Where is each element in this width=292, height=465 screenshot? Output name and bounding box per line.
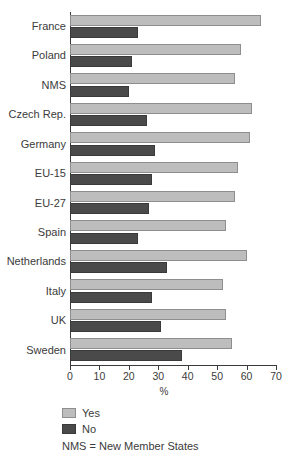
bar-group-row (70, 306, 276, 335)
bar-group-row (70, 159, 276, 188)
bar-yes-uk (70, 309, 226, 320)
x-axis-tick-label-70: 70 (270, 370, 282, 382)
bar-group-row (70, 277, 276, 306)
y-axis-label-germany: Germany (21, 130, 66, 159)
x-axis-tick-label-20: 20 (123, 370, 135, 382)
bar-no-germany (70, 145, 155, 156)
bar-no-czech-rep (70, 115, 147, 126)
y-axis-label-sweden: Sweden (26, 336, 66, 365)
y-axis-label-netherlands: Netherlands (7, 247, 66, 276)
x-axis-tick-label-40: 40 (182, 370, 194, 382)
bar-yes-poland (70, 44, 241, 55)
x-axis-tick-label-50: 50 (211, 370, 223, 382)
bar-yes-spain (70, 220, 226, 231)
bar-rows-container (70, 12, 276, 365)
bar-group-row (70, 100, 276, 129)
bar-group-row (70, 130, 276, 159)
bar-yes-eu-15 (70, 162, 238, 173)
bar-no-sweden (70, 350, 182, 361)
bar-yes-sweden (70, 338, 232, 349)
y-axis-label-nms: NMS (42, 71, 66, 100)
x-axis-title: % (0, 386, 292, 397)
y-axis-label-spain: Spain (38, 218, 66, 247)
bar-yes-france (70, 15, 261, 26)
bar-group-row (70, 218, 276, 247)
bar-no-uk (70, 321, 161, 332)
bar-yes-nms (70, 73, 235, 84)
bar-no-spain (70, 233, 138, 244)
bar-no-france (70, 27, 138, 38)
bar-no-eu-27 (70, 203, 149, 214)
bar-no-netherlands (70, 262, 167, 273)
chart-title-strip: EU towards other countries? (0, 0, 292, 9)
bar-yes-eu-27 (70, 191, 235, 202)
bar-yes-czech-rep (70, 103, 252, 114)
y-axis-category-labels: FrancePolandNMSCzech Rep.GermanyEU-15EU-… (0, 12, 66, 365)
chart-legend: Yes No NMS = New Member States (62, 406, 199, 452)
bar-group-row (70, 41, 276, 70)
x-axis-tick-label-30: 30 (152, 370, 164, 382)
legend-item-no: No (62, 422, 199, 436)
x-axis-tick-label-60: 60 (241, 370, 253, 382)
y-axis-label-czech-rep: Czech Rep. (9, 100, 66, 129)
bar-yes-germany (70, 132, 250, 143)
y-axis-label-uk: UK (51, 306, 66, 335)
bar-group-row (70, 335, 276, 364)
bar-no-poland (70, 56, 132, 67)
bar-group-row (70, 71, 276, 100)
bar-group-row (70, 247, 276, 276)
y-axis-label-eu-27: EU-27 (35, 189, 66, 218)
legend-label-yes: Yes (82, 407, 100, 419)
legend-swatch-no-icon (62, 424, 76, 434)
y-axis-label-france: France (32, 12, 66, 41)
bar-no-italy (70, 292, 152, 303)
legend-footnote: NMS = New Member States (62, 440, 199, 452)
bar-yes-italy (70, 279, 223, 290)
x-axis-line (70, 365, 276, 366)
bar-yes-netherlands (70, 250, 247, 261)
legend-item-yes: Yes (62, 406, 199, 420)
bar-no-nms (70, 86, 129, 97)
x-axis-tick-label-10: 10 (94, 370, 106, 382)
legend-label-no: No (82, 423, 96, 435)
bar-group-row (70, 188, 276, 217)
page-title: EU towards other countries? (2, 0, 154, 2)
y-axis-label-poland: Poland (32, 41, 66, 70)
y-axis-label-eu-15: EU-15 (35, 159, 66, 188)
bar-no-eu-15 (70, 174, 152, 185)
legend-swatch-yes-icon (62, 408, 76, 418)
bar-group-row (70, 12, 276, 41)
x-axis-tick-label-0: 0 (67, 370, 73, 382)
y-axis-label-italy: Italy (46, 277, 66, 306)
